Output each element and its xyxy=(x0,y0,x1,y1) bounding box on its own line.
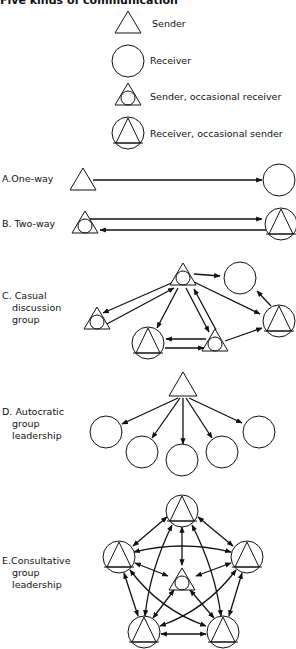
receiver-node xyxy=(166,444,198,476)
receiver-node xyxy=(224,262,256,294)
sender-occasional-receiver-node xyxy=(169,568,195,590)
receiver-node xyxy=(206,436,238,468)
sender-occasional-receiver-node xyxy=(170,263,196,285)
receiver-node xyxy=(263,164,295,196)
receiver-occasional-sender-node xyxy=(128,616,160,648)
receiver-node xyxy=(126,436,158,468)
receiver-occasional-sender-node xyxy=(132,327,164,359)
receiver-occasional-sender-node xyxy=(166,495,198,527)
receiver-occasional-sender-node xyxy=(207,616,239,648)
receiver-node xyxy=(90,416,122,448)
receiver-node xyxy=(243,416,275,448)
receiver-occasional-sender-node xyxy=(231,541,263,573)
receiver-occasional-sender-node xyxy=(103,541,135,573)
sender-node xyxy=(169,372,197,396)
receiver-occasional-sender-node xyxy=(263,305,295,337)
legend-receiver-occasional-sender-icon xyxy=(112,117,144,149)
receiver-occasional-sender-node xyxy=(265,208,296,240)
legend-sender-icon xyxy=(115,11,141,33)
diagram-canvas xyxy=(0,0,296,649)
sender-occasional-receiver-node xyxy=(72,211,98,233)
sender-occasional-receiver-node xyxy=(84,307,110,329)
legend-receiver-icon xyxy=(112,45,144,77)
legend-sender-occasional-receiver-icon xyxy=(115,83,141,105)
sender-node xyxy=(70,168,96,190)
diagram-b-two-way xyxy=(90,219,266,230)
sender-occasional-receiver-node xyxy=(202,329,228,351)
